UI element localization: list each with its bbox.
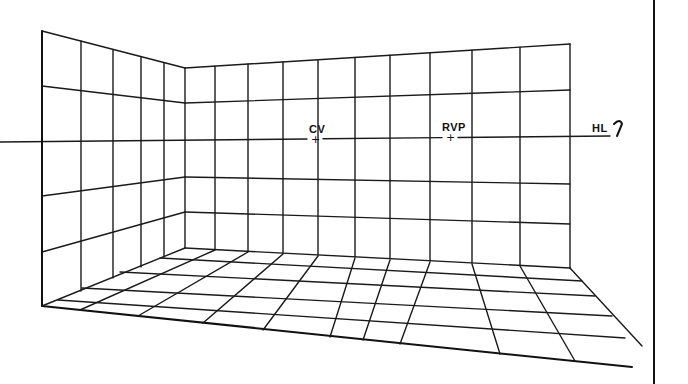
hl-arrow-icon bbox=[614, 121, 622, 136]
back-wall-top-edge bbox=[185, 44, 570, 68]
back-wall-horizontal bbox=[185, 90, 570, 103]
rvp-marker-icon: + bbox=[446, 132, 455, 143]
left-wall-grid bbox=[42, 31, 185, 306]
back-wall-horizontal bbox=[185, 177, 570, 184]
horizon-line bbox=[0, 136, 610, 142]
floor-depth-line bbox=[400, 262, 430, 344]
floor-cross-line bbox=[58, 300, 625, 338]
hl-arrow-icon bbox=[614, 121, 622, 136]
floor-depth-line bbox=[80, 250, 215, 310]
horizon-line-segment bbox=[0, 139, 307, 142]
back-wall-grid bbox=[185, 44, 570, 268]
floor-depth-line bbox=[330, 258, 355, 337]
perspective-diagram bbox=[0, 0, 688, 384]
floor-cross-line bbox=[120, 272, 595, 296]
back-wall-bottom-edge bbox=[185, 248, 570, 268]
floor-right-edge bbox=[570, 268, 642, 346]
back-wall-horizontal bbox=[185, 212, 570, 224]
floor-depth-line bbox=[263, 256, 318, 330]
horizon-line-segment bbox=[323, 138, 442, 139]
horizon-line-segment bbox=[458, 136, 610, 137]
hl-label: HL bbox=[592, 122, 608, 134]
floor-depth-line bbox=[363, 260, 390, 340]
floor-grid bbox=[42, 248, 642, 367]
cv-marker-icon: + bbox=[311, 134, 320, 145]
